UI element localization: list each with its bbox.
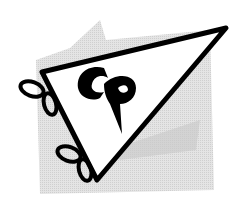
pennant-icon [0, 0, 239, 207]
